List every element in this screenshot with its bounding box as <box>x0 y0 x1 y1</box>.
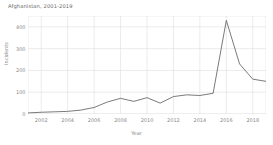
y-tick-label: 0 <box>22 111 25 117</box>
y-tick-label: 400 <box>16 24 26 30</box>
grid-lines <box>28 16 266 114</box>
x-axis-label: Year <box>0 130 273 136</box>
y-tick-label: 100 <box>16 89 26 95</box>
y-axis-label: Incidents <box>3 42 9 65</box>
x-tick-label: 2008 <box>114 117 127 123</box>
x-tick-label: 2014 <box>194 117 207 123</box>
y-tick-label: 200 <box>16 67 26 73</box>
x-tick-label: 2006 <box>88 117 101 123</box>
plot-area: 0100200300400 20022004200620082010201220… <box>28 16 266 114</box>
chart-figure: Afghanistan, 2001-2019 Incidents 0100200… <box>0 0 273 145</box>
x-tick-label: 2002 <box>35 117 48 123</box>
x-tick-label: 2010 <box>141 117 154 123</box>
y-tick-label: 300 <box>16 46 26 52</box>
x-tick-label: 2016 <box>220 117 233 123</box>
x-tick-label: 2018 <box>246 117 259 123</box>
x-tick-label: 2012 <box>167 117 180 123</box>
x-tick-label: 2004 <box>61 117 74 123</box>
chart-title: Afghanistan, 2001-2019 <box>8 3 73 9</box>
plot-svg <box>28 16 266 114</box>
